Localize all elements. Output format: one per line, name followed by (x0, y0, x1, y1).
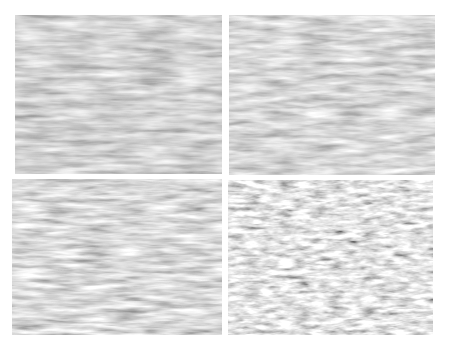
speckle-texture-image (228, 180, 433, 335)
texture-panel-top-right: grayscale horizontal-streak speckle text… (229, 15, 435, 175)
texture-panel-bottom-left: grayscale horizontal-streak speckle text… (12, 179, 222, 335)
texture-panel-bottom-right: grayscale fine wavy speckle texture, hig… (228, 180, 433, 335)
speckle-texture-image (229, 15, 435, 175)
speckle-texture-image (12, 179, 222, 335)
speckle-texture-image (15, 15, 222, 174)
texture-panel-top-left: grayscale horizontal-streak speckle text… (15, 15, 222, 174)
